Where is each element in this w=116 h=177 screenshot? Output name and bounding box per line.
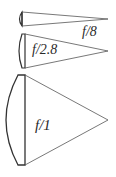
aperture-cones-diagram: f/8 f/2.8 f/1 [0, 0, 116, 177]
cone-f8: f/8 [20, 12, 109, 39]
label-f8: f/8 [82, 24, 97, 39]
lens-f2-8 [19, 34, 25, 68]
label-f2-8: f/2.8 [32, 42, 57, 57]
ray-top-f1 [25, 75, 108, 120]
ray-top-f8 [22, 12, 108, 19]
label-f1: f/1 [35, 117, 51, 133]
cone-f2-8: f/2.8 [19, 34, 108, 68]
lens-f1 [6, 75, 25, 165]
cone-f1: f/1 [6, 75, 108, 165]
